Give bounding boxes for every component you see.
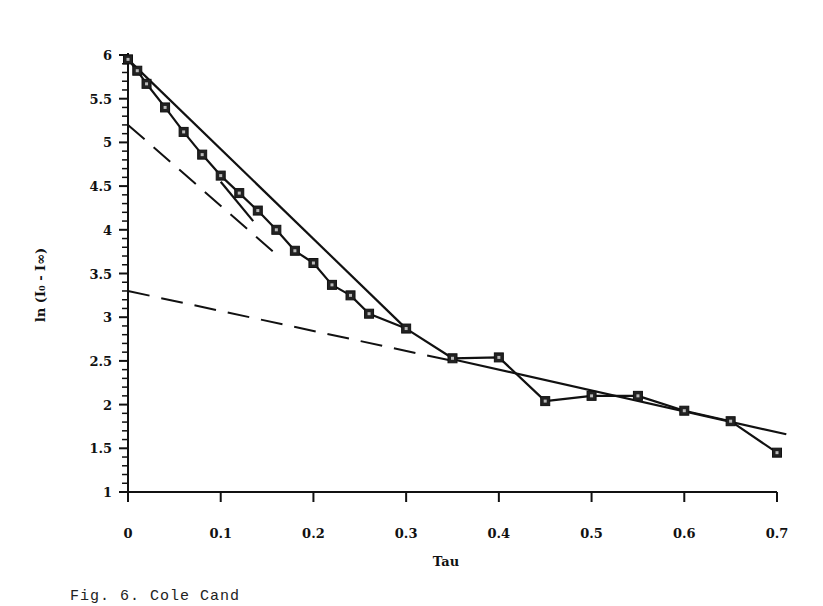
square-marker-center [238, 192, 241, 195]
y-axis-title: ln (I₀ - I∞) [33, 248, 48, 322]
y-tick-label: 1.5 [89, 441, 112, 456]
x-tick-label: 0.4 [488, 526, 511, 541]
square-marker-center [636, 394, 639, 397]
x-tick-label: 0.1 [209, 526, 232, 541]
y-tick-label: 6 [103, 48, 112, 63]
x-tick-label: 0.7 [766, 526, 789, 541]
square-marker-center [590, 394, 593, 397]
axes: 11.522.533.544.555.5600.10.20.30.40.50.6… [89, 48, 788, 541]
y-tick-label: 5.5 [89, 92, 112, 107]
series-extrapolation-fast [128, 125, 276, 254]
square-marker-center [312, 262, 315, 265]
square-marker-center [368, 312, 371, 315]
square-marker-center [127, 58, 130, 61]
y-tick-label: 3.5 [89, 267, 112, 282]
y-tick-label: 5 [103, 135, 112, 150]
x-tick-label: 0 [123, 526, 132, 541]
x-tick-label: 0.5 [580, 526, 603, 541]
y-tick-label: 2 [103, 398, 112, 413]
series-fit-slow [453, 359, 787, 434]
y-tick-label: 2.5 [89, 354, 112, 369]
square-marker-center [164, 106, 167, 109]
square-marker-center [275, 228, 278, 231]
series-fit-fast [128, 59, 406, 328]
x-axis-title: Tau [433, 554, 459, 569]
square-marker-center [405, 327, 408, 330]
figure-caption: Fig. 6. Cole Cand [70, 588, 240, 605]
y-tick-label: 4 [103, 223, 112, 238]
square-marker-center [256, 209, 259, 212]
square-marker-center [136, 69, 139, 72]
square-marker-center [293, 249, 296, 252]
square-marker-center [729, 420, 732, 423]
square-marker-center [219, 174, 222, 177]
square-marker-center [330, 283, 333, 286]
chart: 11.522.533.544.555.5600.10.20.30.40.50.6… [0, 0, 823, 606]
y-tick-label: 1 [103, 485, 112, 500]
series-data [128, 59, 777, 452]
square-marker-center [544, 400, 547, 403]
square-marker-center [182, 130, 185, 133]
square-marker-center [451, 357, 454, 360]
y-tick-label: 4.5 [89, 179, 112, 194]
x-tick-label: 0.2 [302, 526, 325, 541]
square-marker-center [497, 356, 500, 359]
square-marker-center [145, 82, 148, 85]
x-tick-label: 0.3 [395, 526, 418, 541]
square-marker-center [683, 409, 686, 412]
square-marker-center [776, 451, 779, 454]
y-tick-label: 3 [103, 310, 112, 325]
series-lines [128, 59, 786, 452]
square-marker-center [349, 294, 352, 297]
x-tick-label: 0.6 [673, 526, 696, 541]
square-marker-center [201, 153, 204, 156]
data-markers [124, 55, 782, 457]
